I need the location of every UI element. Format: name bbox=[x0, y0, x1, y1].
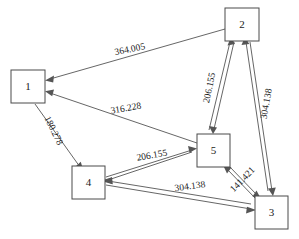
edge-line bbox=[50, 93, 197, 143]
node-5[interactable]: 5 bbox=[197, 134, 230, 167]
node-3[interactable]: 3 bbox=[255, 196, 288, 229]
node-label: 3 bbox=[269, 206, 275, 218]
node-1[interactable]: 1 bbox=[11, 70, 45, 103]
diagram-canvas: 1 2 3 4 5 364.005 316.228 180.278 bbox=[0, 0, 299, 239]
edge-weight-label: 304.138 bbox=[174, 179, 206, 193]
arrow-head-icon bbox=[188, 146, 197, 153]
arrow-head-icon bbox=[45, 76, 54, 83]
edge-weight-label: 304.138 bbox=[259, 88, 274, 120]
arrow-head-icon bbox=[209, 126, 217, 134]
graph-svg: 1 2 3 4 5 364.005 316.228 180.278 bbox=[0, 0, 299, 239]
edge-line bbox=[50, 29, 225, 79]
node-4[interactable]: 4 bbox=[72, 166, 105, 199]
edge-weight-label: 206.155 bbox=[201, 71, 217, 104]
arrow-head-icon bbox=[268, 188, 276, 197]
node-label: 2 bbox=[239, 18, 245, 30]
edge-weight-label: 364.005 bbox=[114, 41, 147, 57]
node-label: 4 bbox=[86, 176, 92, 188]
edge-line bbox=[214, 42, 234, 129]
node-label: 1 bbox=[25, 80, 31, 92]
node-2[interactable]: 2 bbox=[225, 8, 259, 41]
edge-5-to-1[interactable] bbox=[45, 90, 197, 144]
node-label: 5 bbox=[211, 144, 217, 156]
edge-2-to-1[interactable] bbox=[45, 29, 225, 83]
arrow-head-icon bbox=[45, 90, 54, 97]
edge-weight-label: 180.278 bbox=[42, 115, 65, 147]
edge-weight-label: 206.155 bbox=[136, 148, 168, 163]
edge-weight-label: 316.228 bbox=[110, 101, 142, 116]
